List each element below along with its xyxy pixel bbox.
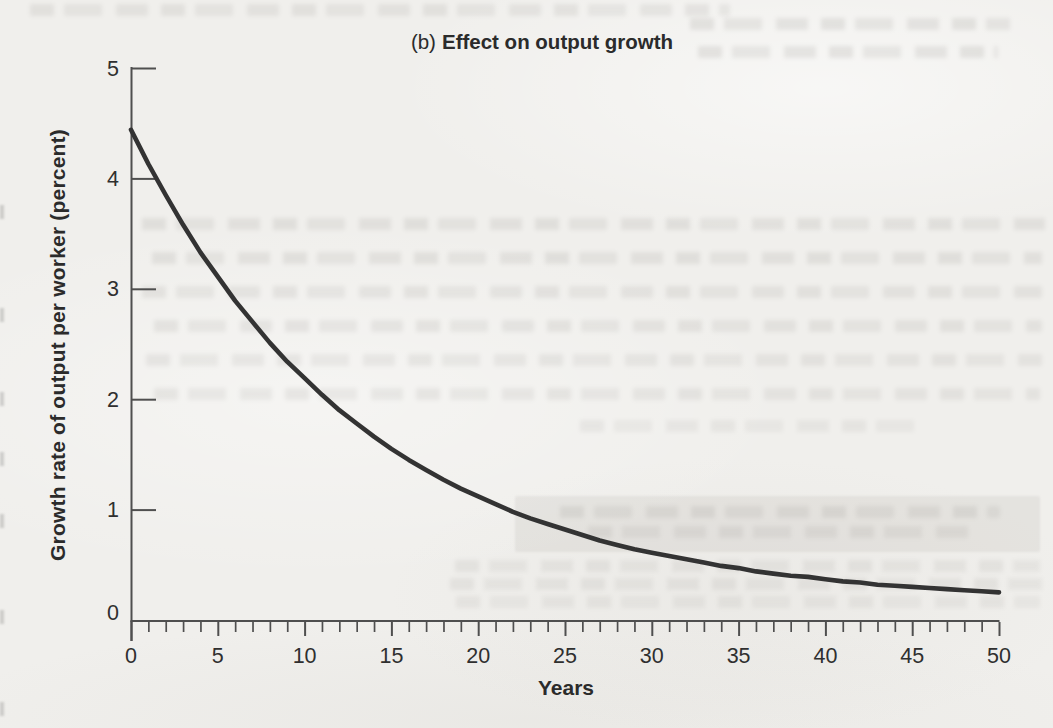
y-tick-label: 1	[107, 498, 119, 522]
y-tick-label: 4	[107, 167, 119, 191]
x-tick-label: 0	[125, 644, 137, 668]
y-tick-label: 2	[107, 388, 119, 412]
y-tick-label: 3	[107, 277, 119, 301]
x-tick-label: 50	[987, 644, 1011, 668]
scanned-book-page: (b)Effect on output growth Growth rate o…	[0, 0, 1053, 728]
line-chart-plot: 01234505101520253035404550	[0, 0, 1053, 728]
x-tick-label: 45	[900, 644, 924, 668]
growth-rate-curve	[131, 130, 999, 593]
x-tick-label: 35	[727, 644, 751, 668]
x-tick-label: 30	[640, 644, 664, 668]
x-tick-label: 5	[212, 644, 224, 668]
x-tick-label: 15	[379, 644, 403, 668]
y-tick-label: 5	[107, 57, 119, 81]
x-tick-label: 10	[293, 644, 317, 668]
x-tick-label: 40	[813, 644, 837, 668]
x-tick-label: 25	[553, 644, 577, 668]
x-tick-label: 20	[466, 644, 490, 668]
y-tick-label: 0	[107, 601, 119, 625]
